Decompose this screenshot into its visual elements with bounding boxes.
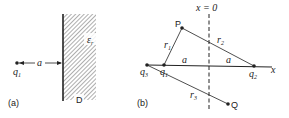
charge-q2-label: q2 bbox=[249, 68, 257, 80]
dielectric-region bbox=[63, 14, 96, 100]
region-label: D bbox=[76, 95, 83, 105]
point-p-label: P bbox=[175, 19, 181, 29]
panel-b-label: (b) bbox=[137, 98, 148, 108]
panel-b: x = 0 x P Q q3 q1 q2 r1 r2 r3 a a (b) bbox=[137, 2, 276, 110]
r1-label: r1 bbox=[164, 39, 171, 51]
charge-q1-dot bbox=[15, 61, 19, 65]
distance-right-label: a bbox=[226, 54, 231, 65]
distance-left-label: a bbox=[182, 54, 187, 65]
plane-label: x = 0 bbox=[195, 2, 217, 13]
panel-a: a q1 εr D (a) bbox=[8, 14, 98, 108]
panel-a-label: (a) bbox=[8, 98, 19, 108]
charge-q3-dot bbox=[145, 63, 149, 67]
r2-label: r2 bbox=[217, 34, 224, 46]
charge-q3-label: q3 bbox=[140, 66, 148, 78]
diagram: a q1 εr D (a) x = 0 x P Q q3 q1 q2 r1 r2… bbox=[0, 0, 289, 118]
point-q-label: Q bbox=[231, 100, 238, 110]
axis-label: x bbox=[270, 64, 276, 75]
r3-label: r3 bbox=[190, 89, 197, 101]
arrowhead-left-icon bbox=[19, 61, 24, 65]
distance-label: a bbox=[37, 57, 42, 68]
point-q-dot bbox=[226, 102, 230, 106]
arrowhead-right-icon bbox=[57, 61, 62, 65]
charge-q1-label: q1 bbox=[160, 66, 168, 78]
charge-q1-label: q1 bbox=[13, 66, 21, 78]
